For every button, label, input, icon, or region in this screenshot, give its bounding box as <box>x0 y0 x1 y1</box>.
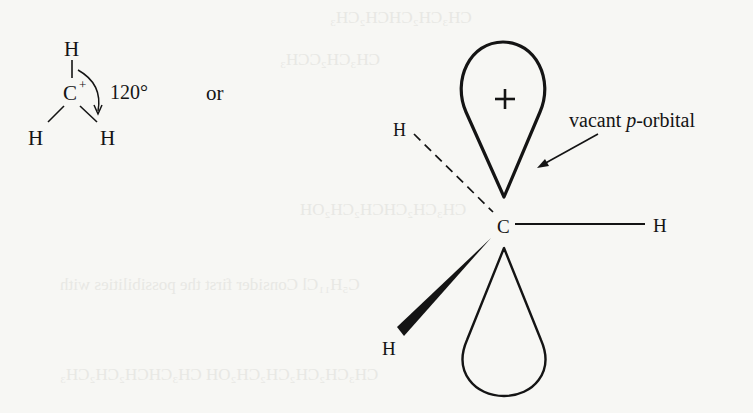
atom-h-lower-right: H <box>100 126 115 150</box>
annotation-p-italic: p <box>624 109 636 132</box>
annotation-prefix: vacant <box>569 109 626 131</box>
carbocation-diagram: H C + H H 120° or <box>0 0 753 413</box>
orbital-picture: H C H H vacant p-orbital <box>382 42 695 396</box>
p-orbital-upper-lobe <box>461 42 545 197</box>
orbital-annotation: vacant p-orbital <box>569 109 695 132</box>
atom-h-lower-left: H <box>382 338 396 359</box>
annotation-arrow-icon <box>542 134 598 165</box>
planar-methyl-cation: H C + H H 120° <box>28 37 148 150</box>
bond-c-h-lower-left <box>48 106 64 122</box>
atom-h-upper-left: H <box>393 120 406 140</box>
atom-carbon: C <box>497 216 510 237</box>
atom-h-lower-left: H <box>28 126 43 150</box>
connector-or: or <box>206 81 224 105</box>
p-orbital-lower-lobe <box>463 248 546 396</box>
atom-carbon-cation: C <box>63 81 77 105</box>
atom-h-top: H <box>64 37 79 61</box>
atom-h-right: H <box>653 215 667 236</box>
bond-angle-label: 120° <box>110 81 148 103</box>
annotation-arrowhead-icon <box>537 159 549 168</box>
annotation-suffix: -orbital <box>636 109 695 131</box>
bond-c-h-lower-right <box>80 106 97 122</box>
page-background: CH₃CH₂CHCH₂CH₃ CH₃CH₂CCH₃ CH₃CH₂CHCH₂CH₂… <box>0 0 753 413</box>
bond-wedge-front <box>397 238 491 336</box>
positive-charge: + <box>79 77 86 92</box>
